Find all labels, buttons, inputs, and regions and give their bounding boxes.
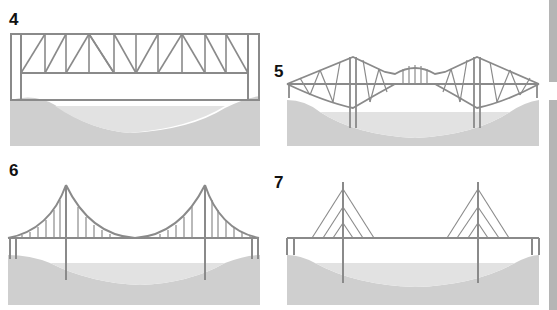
panel-cable-stayed-bridge: 7 xyxy=(275,155,549,310)
panel-cantilever-bridge: 5 xyxy=(275,40,549,152)
panel-truss-bridge: 4 xyxy=(0,0,275,150)
suspension-bridge-drawing xyxy=(0,155,275,310)
panel-suspension-bridge: 6 xyxy=(0,155,275,310)
cantilever-bridge-drawing xyxy=(275,40,549,152)
page-edge-strip-top xyxy=(549,0,557,82)
cable-stayed-bridge-drawing xyxy=(275,155,549,310)
truss-bridge-drawing xyxy=(0,0,275,150)
page-edge-strip-bottom xyxy=(549,100,557,310)
